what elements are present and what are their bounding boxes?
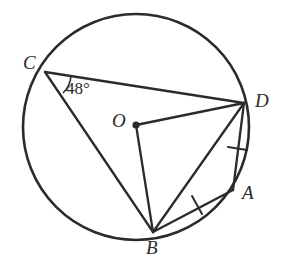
point-label-O: O	[112, 111, 126, 130]
segment-OB	[136, 125, 153, 232]
segment-OD	[136, 103, 244, 125]
geometry-figure: C D O A B 48°	[0, 0, 290, 262]
point-label-A: A	[242, 183, 254, 202]
point-label-B: B	[146, 238, 158, 257]
angle-label-48-degrees: 48°	[66, 80, 90, 97]
segment-CB	[45, 72, 153, 232]
point-label-D: D	[255, 91, 269, 110]
point-label-C: C	[23, 53, 36, 72]
geometry-canvas	[0, 0, 290, 262]
segment-BD	[153, 103, 244, 232]
center-point-dot	[132, 121, 139, 128]
